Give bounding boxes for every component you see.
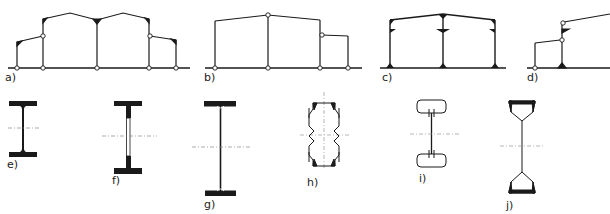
section-i bbox=[410, 100, 460, 167]
frame-d-hinges bbox=[533, 21, 565, 70]
frame-d bbox=[527, 14, 610, 68]
frame-b-hinges bbox=[213, 13, 350, 70]
label-h: h) bbox=[307, 176, 318, 189]
label-d: d) bbox=[527, 71, 538, 84]
label-g: g) bbox=[204, 198, 215, 211]
section-j bbox=[500, 101, 545, 193]
frame-a bbox=[8, 13, 190, 68]
label-i: i) bbox=[419, 172, 426, 185]
label-j: j) bbox=[506, 199, 513, 212]
frame-b bbox=[205, 15, 362, 68]
label-f: f) bbox=[112, 174, 120, 187]
label-a: a) bbox=[5, 71, 16, 84]
structural-diagram bbox=[0, 0, 610, 214]
section-g bbox=[192, 101, 251, 196]
label-b: b) bbox=[204, 71, 215, 84]
section-e bbox=[8, 101, 40, 157]
frame-c bbox=[380, 14, 506, 68]
label-e: e) bbox=[7, 158, 18, 171]
section-h bbox=[300, 92, 350, 168]
label-c: c) bbox=[382, 71, 392, 84]
section-f bbox=[102, 101, 157, 174]
